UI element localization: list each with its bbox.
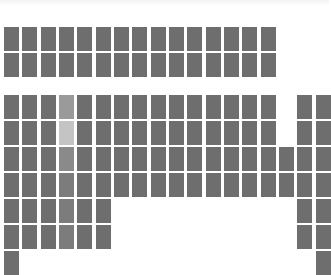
tile[interactable] <box>77 95 92 119</box>
tile[interactable] <box>4 225 19 249</box>
tile[interactable] <box>41 173 56 197</box>
tile[interactable] <box>114 173 129 197</box>
tile[interactable] <box>151 95 166 119</box>
tile[interactable] <box>169 95 184 119</box>
tile[interactable] <box>41 121 56 145</box>
tile[interactable] <box>316 225 331 249</box>
tile[interactable] <box>77 199 92 223</box>
tile[interactable] <box>297 95 312 119</box>
tile[interactable] <box>4 251 19 275</box>
tile[interactable] <box>316 173 331 197</box>
tile[interactable] <box>132 95 147 119</box>
highlighted-tile[interactable] <box>59 147 74 171</box>
tile[interactable] <box>206 147 221 171</box>
tile[interactable] <box>169 173 184 197</box>
tile[interactable] <box>187 95 202 119</box>
tile[interactable] <box>132 173 147 197</box>
tile[interactable] <box>224 95 239 119</box>
tile[interactable] <box>316 199 331 223</box>
tile[interactable] <box>169 147 184 171</box>
tile[interactable] <box>41 199 56 223</box>
tile[interactable] <box>151 173 166 197</box>
tile[interactable] <box>41 225 56 249</box>
tile[interactable] <box>96 225 111 249</box>
tile[interactable] <box>22 147 37 171</box>
tile[interactable] <box>297 147 312 171</box>
tile[interactable] <box>114 147 129 171</box>
tile[interactable] <box>187 147 202 171</box>
tile[interactable] <box>224 173 239 197</box>
tile[interactable] <box>206 173 221 197</box>
tile[interactable] <box>96 199 111 223</box>
tile[interactable] <box>261 173 276 197</box>
highlighted-tile[interactable] <box>59 121 74 145</box>
tile[interactable] <box>279 147 294 171</box>
tile[interactable] <box>151 121 166 145</box>
tile[interactable] <box>261 121 276 145</box>
tile[interactable] <box>132 147 147 171</box>
tile[interactable] <box>316 95 331 119</box>
tile[interactable] <box>22 199 37 223</box>
tile[interactable] <box>297 173 312 197</box>
tile[interactable] <box>242 173 257 197</box>
tile[interactable] <box>22 225 37 249</box>
tile[interactable] <box>261 95 276 119</box>
tile[interactable] <box>169 121 184 145</box>
tile[interactable] <box>242 121 257 145</box>
highlighted-tile[interactable] <box>59 225 74 249</box>
tile[interactable] <box>297 225 312 249</box>
tile[interactable] <box>4 199 19 223</box>
tile[interactable] <box>114 95 129 119</box>
tile[interactable] <box>96 121 111 145</box>
highlighted-tile[interactable] <box>59 173 74 197</box>
highlighted-tile[interactable] <box>59 95 74 119</box>
tile[interactable] <box>4 95 19 119</box>
tile[interactable] <box>316 121 331 145</box>
tile[interactable] <box>279 173 294 197</box>
tile[interactable] <box>261 147 276 171</box>
tile[interactable] <box>41 147 56 171</box>
tile[interactable] <box>316 147 331 171</box>
tile[interactable] <box>242 95 257 119</box>
tile[interactable] <box>41 95 56 119</box>
tile[interactable] <box>77 121 92 145</box>
tile[interactable] <box>206 121 221 145</box>
tile[interactable] <box>114 121 129 145</box>
tile[interactable] <box>22 173 37 197</box>
tile[interactable] <box>4 121 19 145</box>
tile[interactable] <box>297 199 312 223</box>
tile[interactable] <box>22 121 37 145</box>
tile[interactable] <box>242 147 257 171</box>
tile[interactable] <box>187 173 202 197</box>
tile[interactable] <box>297 121 312 145</box>
tile[interactable] <box>206 95 221 119</box>
tile[interactable] <box>96 147 111 171</box>
tile[interactable] <box>151 147 166 171</box>
tile[interactable] <box>4 147 19 171</box>
tile[interactable] <box>77 225 92 249</box>
tile[interactable] <box>316 251 331 275</box>
tile[interactable] <box>187 121 202 145</box>
tile[interactable] <box>77 147 92 171</box>
tile[interactable] <box>96 95 111 119</box>
tile[interactable] <box>224 147 239 171</box>
tile[interactable] <box>96 173 111 197</box>
tile[interactable] <box>132 121 147 145</box>
tile[interactable] <box>4 173 19 197</box>
highlighted-tile[interactable] <box>59 199 74 223</box>
tile[interactable] <box>224 121 239 145</box>
tile[interactable] <box>22 95 37 119</box>
tile[interactable] <box>77 173 92 197</box>
